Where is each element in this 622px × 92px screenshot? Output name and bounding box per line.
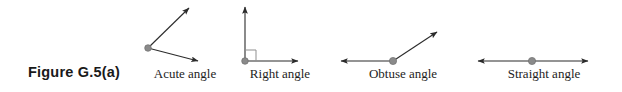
acute-upper-right-ray — [148, 8, 189, 48]
right-angle-diagram — [242, 7, 298, 64]
right-angle-label: Right angle — [237, 66, 323, 82]
obtuse-upper-right-ray — [393, 32, 437, 61]
acute-lower-right-ray — [148, 48, 198, 61]
acute-angle-label: Acute angle — [141, 66, 229, 82]
straight-angle-label: Straight angle — [489, 66, 599, 82]
angle-types-figure: Figure G.5(a) Acute angle Right angle Ob… — [0, 0, 622, 92]
obtuse-angle-diagram — [341, 32, 437, 65]
acute-vertex-dot — [145, 45, 152, 52]
right-vertex-dot — [242, 58, 249, 65]
obtuse-angle-label: Obtuse angle — [355, 66, 451, 82]
straight-angle-diagram — [478, 57, 588, 64]
figure-caption: Figure G.5(a) — [28, 64, 120, 80]
acute-angle-diagram — [145, 8, 198, 61]
obtuse-vertex-dot — [389, 57, 396, 64]
straight-vertex-dot — [528, 57, 535, 64]
